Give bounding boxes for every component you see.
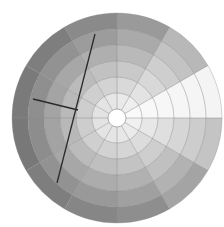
center-hole [108, 109, 126, 127]
polar-wheel-diagram [0, 0, 224, 227]
